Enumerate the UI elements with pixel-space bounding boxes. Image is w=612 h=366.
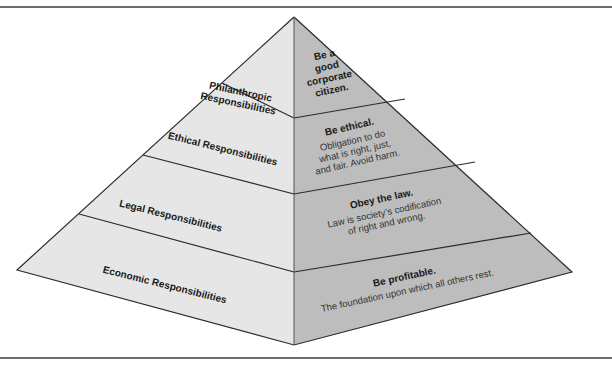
bottom-rule [0, 357, 612, 359]
pyramid-left-face [17, 17, 294, 345]
csr-pyramid: Philanthropic Responsibilities Ethical R… [0, 0, 612, 366]
